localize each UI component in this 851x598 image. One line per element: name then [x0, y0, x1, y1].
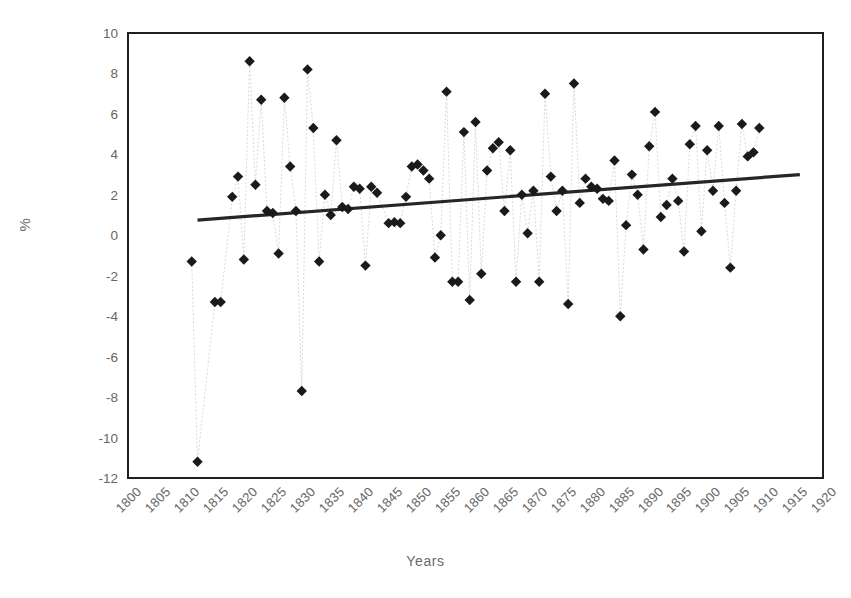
trendline [198, 175, 800, 221]
data-point-marker [360, 260, 370, 270]
data-point-marker [609, 155, 619, 165]
data-point-marker [667, 173, 677, 183]
data-point-marker [731, 186, 741, 196]
data-point-marker [540, 88, 550, 98]
data-point-marker [557, 186, 567, 196]
data-point-marker [291, 206, 301, 216]
data-point-marker [714, 121, 724, 131]
data-point-marker [215, 297, 225, 307]
data-point-marker [569, 78, 579, 88]
data-point-marker [441, 86, 451, 96]
data-point-marker [627, 169, 637, 179]
data-point-marker [424, 173, 434, 183]
trendline-segment [198, 175, 800, 221]
data-point-marker [470, 117, 480, 127]
data-point-marker [227, 192, 237, 202]
data-point-marker [192, 457, 202, 467]
data-point-marker [534, 277, 544, 287]
data-point-marker [453, 277, 463, 287]
data-point-marker [661, 200, 671, 210]
data-point-marker [244, 56, 254, 66]
data-point-marker [621, 220, 631, 230]
data-point-marker [285, 161, 295, 171]
data-point-marker [551, 206, 561, 216]
data-point-marker [517, 190, 527, 200]
data-point-marker [632, 190, 642, 200]
data-point-marker [436, 230, 446, 240]
data-point-marker [580, 173, 590, 183]
data-point-marker [476, 269, 486, 279]
plot-frame [128, 33, 823, 478]
data-point-marker [273, 248, 283, 258]
data-point-marker [505, 145, 515, 155]
data-point-marker [314, 256, 324, 266]
data-point-marker [279, 93, 289, 103]
data-point-marker [465, 295, 475, 305]
data-point-marker [308, 123, 318, 133]
data-point-marker [719, 198, 729, 208]
data-point-marker [638, 244, 648, 254]
data-point-marker [430, 252, 440, 262]
data-point-marker [302, 64, 312, 74]
data-point-marker [656, 212, 666, 222]
data-point-marker [725, 262, 735, 272]
data-point-marker [615, 311, 625, 321]
data-point-marker [239, 254, 249, 264]
data-point-marker [673, 196, 683, 206]
data-point-marker [575, 198, 585, 208]
data-point-markers [187, 56, 765, 467]
data-point-marker [499, 206, 509, 216]
data-point-marker [320, 190, 330, 200]
data-point-marker [754, 123, 764, 133]
data-point-marker [482, 165, 492, 175]
data-point-marker [511, 277, 521, 287]
data-point-marker [685, 139, 695, 149]
data-point-marker [563, 299, 573, 309]
data-point-marker [690, 121, 700, 131]
data-point-marker [708, 186, 718, 196]
data-point-marker [650, 107, 660, 117]
scatter-chart: % Years 1086420-2-4-6-8-10-12 1800180518… [0, 0, 851, 598]
data-point-marker [546, 171, 556, 181]
data-point-marker [297, 386, 307, 396]
data-point-marker [233, 171, 243, 181]
data-point-marker [401, 192, 411, 202]
data-point-marker [702, 145, 712, 155]
data-point-marker [187, 256, 197, 266]
data-point-marker [737, 119, 747, 129]
data-point-marker [522, 228, 532, 238]
plot-area [0, 0, 851, 598]
data-point-marker [459, 127, 469, 137]
data-point-marker [644, 141, 654, 151]
data-point-marker [250, 180, 260, 190]
data-point-marker [256, 95, 266, 105]
data-point-marker [679, 246, 689, 256]
data-point-marker [696, 226, 706, 236]
data-point-marker [331, 135, 341, 145]
